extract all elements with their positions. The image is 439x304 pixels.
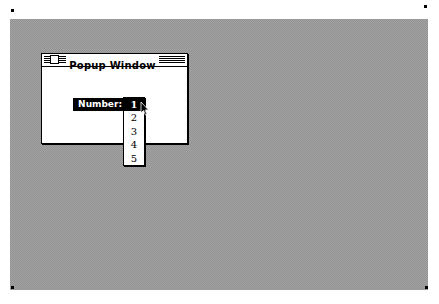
- close-box-icon[interactable]: [50, 55, 59, 64]
- popup-label[interactable]: Number:: [73, 98, 124, 111]
- title-bar-stripes-right: [159, 56, 185, 64]
- menu-item-3[interactable]: 3: [124, 125, 144, 138]
- popup-window: Popup Window Number:: [41, 53, 188, 144]
- screen-corner-top-left: [11, 9, 14, 12]
- screen-corner-bottom-right: [425, 286, 428, 289]
- screen-corner-bottom-left: [11, 286, 14, 289]
- menu-item-5[interactable]: 5: [124, 152, 144, 165]
- menu-item-4[interactable]: 4: [124, 138, 144, 151]
- window-title-bar[interactable]: Popup Window: [42, 54, 187, 67]
- screen-corner-top-right: [424, 5, 427, 8]
- arrow-cursor-icon: [140, 101, 150, 117]
- window-title: Popup Window: [69, 60, 155, 71]
- window-title-area: Popup Window: [68, 54, 157, 66]
